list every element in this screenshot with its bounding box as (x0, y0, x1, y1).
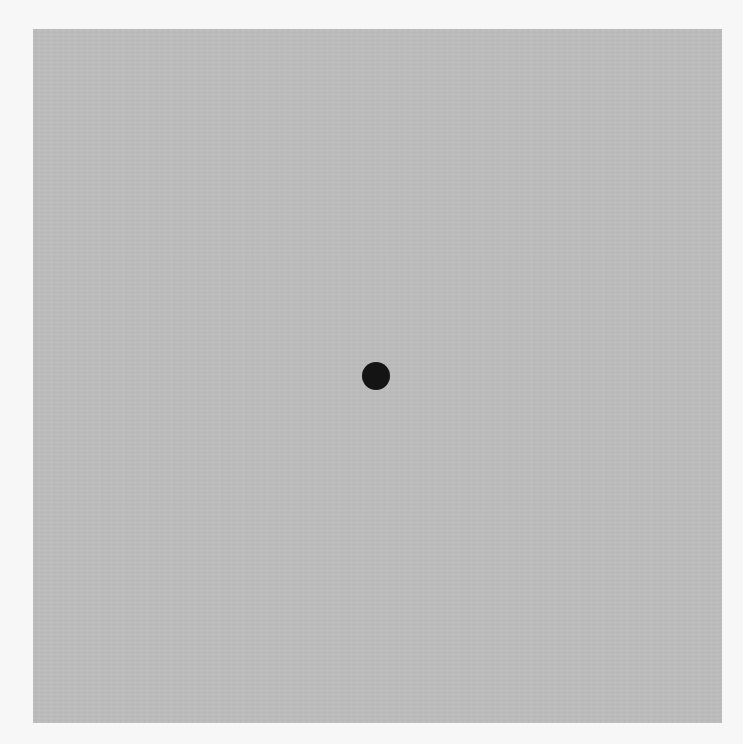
fixation-dot (362, 362, 390, 390)
